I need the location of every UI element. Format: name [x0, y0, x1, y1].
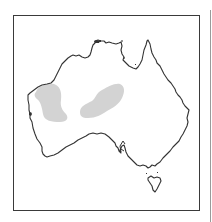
bass-strait-islands: [146, 172, 158, 174]
tasmania-coastline: [148, 176, 161, 192]
map-canvas: [0, 0, 212, 222]
central-shaded-region: [80, 84, 124, 118]
map-figure: [0, 0, 212, 222]
western-shaded-region: [35, 84, 68, 122]
